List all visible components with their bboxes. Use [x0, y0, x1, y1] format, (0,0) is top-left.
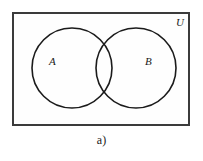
venn-figure: U A B a): [0, 0, 203, 161]
set-b-circle: [96, 28, 176, 108]
set-a-circle: [32, 28, 112, 108]
figure-caption: a): [0, 133, 203, 147]
set-b-label: B: [145, 56, 152, 67]
universe-label: U: [176, 17, 184, 28]
set-a-label: A: [49, 56, 56, 67]
venn-circles: [12, 12, 190, 126]
